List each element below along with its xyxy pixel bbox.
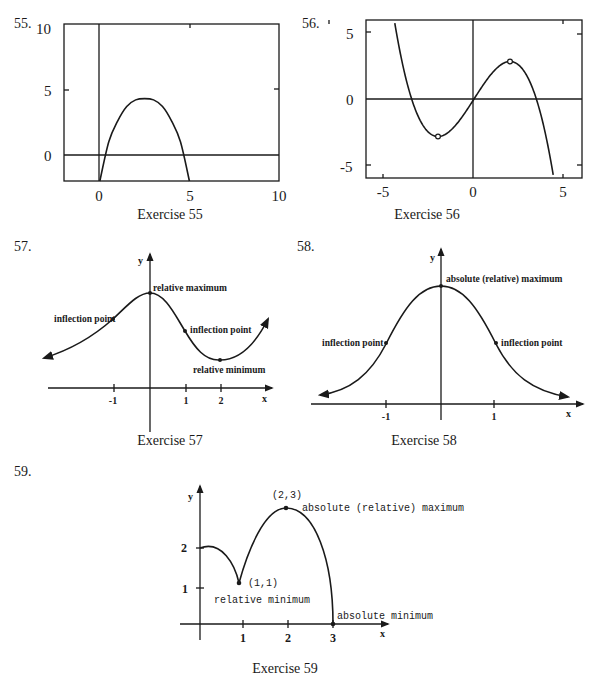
exercise-58-plot: 58. y x absolute (relative) maximum infl… — [297, 239, 583, 448]
exercise-57-x-label: x — [262, 393, 267, 404]
exercise-55-ytick-label-10: 10 — [36, 21, 51, 37]
exercise-57-xtick-label-2: 2 — [219, 395, 224, 406]
exercise-58-inflection-right-point — [494, 341, 498, 345]
exercise-56-max-point — [508, 59, 513, 64]
exercise-57-xtick-label-m1: -1 — [109, 395, 117, 406]
exercise-58-number: 58. — [297, 239, 315, 254]
exercise-58-annotation-inflection-left: inflection point — [322, 338, 384, 348]
exercise-59-min-note: relative minimum — [214, 595, 310, 606]
exercise-58-xtick-label-1: 1 — [492, 411, 497, 422]
exercise-59-absmin-note: absolute minimum — [337, 611, 433, 622]
exercise-57-y-label: y — [138, 255, 143, 266]
exercise-57-max-point — [148, 291, 152, 295]
exercise-57-annotation-min: relative minimum — [193, 365, 265, 375]
exercise-56-xtick-label-0: 0 — [469, 184, 477, 200]
exercise-59-max-note: absolute (relative) maximum — [302, 503, 464, 514]
exercise-59-absolute-min-point — [331, 622, 336, 627]
exercise-59-number: 59. — [14, 464, 32, 479]
exercise-59-y-label: y — [188, 491, 193, 502]
exercise-57-caption: Exercise 57 — [137, 433, 203, 448]
exercise-59-caption: Exercise 59 — [252, 661, 318, 676]
exercise-59-xtick-label-3: 3 — [330, 631, 336, 645]
exercise-57-annotation-inflection-right: inflection point — [190, 325, 252, 335]
exercise-58-inflection-left-point — [384, 341, 388, 345]
exercise-57-inflection-right-point — [183, 329, 187, 333]
exercise-57-annotation-inflection-left: inflection point — [54, 314, 116, 324]
exercise-55-xtick-label-5: 5 — [186, 188, 194, 204]
exercise-59-xtick-label-2: 2 — [285, 631, 291, 645]
exercise-55-xtick-label-0: 0 — [95, 188, 103, 204]
exercise-55-plot: 55. 10 5 0 0 5 10 Exercise 55 — [14, 16, 287, 222]
exercise-59-curve — [200, 508, 333, 624]
exercise-55-xtick-label-10: 10 — [272, 188, 287, 204]
exercise-56-ytick-label-0: 0 — [346, 92, 354, 108]
exercise-59-plot: 59. y x 2 1 1 2 3 (2,3) absolute (relati… — [14, 464, 464, 676]
exercise-56-caption: Exercise 56 — [394, 207, 460, 222]
exercise-57-xtick-label-1: 1 — [184, 395, 189, 406]
exercise-58-x-label: x — [566, 408, 571, 419]
exercise-56-plot: 56. 5 0 -5 -5 0 5 Exercise 56 — [302, 16, 582, 222]
figure-canvas: 55. 10 5 0 0 5 10 Exercise 55 56. 5 0 -5 — [0, 0, 598, 680]
exercise-55-number: 55. — [14, 16, 32, 31]
exercise-57-plot: 57. y x relative maximum inflection poin… — [14, 239, 272, 448]
exercise-58-annotation-max: absolute (relative) maximum — [446, 274, 563, 285]
exercise-57-min-point — [218, 358, 222, 362]
exercise-58-max-point — [439, 284, 443, 288]
exercise-56-ytick-label-m5: -5 — [340, 159, 353, 175]
exercise-57-number: 57. — [14, 239, 32, 254]
exercise-56-min-point — [436, 134, 441, 139]
exercise-58-xtick-label-m1: -1 — [382, 411, 390, 422]
exercise-58-y-label: y — [430, 252, 435, 263]
exercise-59-max-coord: (2,3) — [272, 490, 302, 501]
exercise-55-ytick-label-0: 0 — [44, 148, 52, 164]
exercise-56-ytick-label-5: 5 — [346, 26, 354, 42]
exercise-59-ytick-label-2: 2 — [181, 541, 187, 555]
exercise-58-caption: Exercise 58 — [391, 433, 457, 448]
exercise-55-ytick-label-5: 5 — [44, 83, 52, 99]
exercise-59-max-point — [284, 506, 289, 511]
exercise-56-number: 56. — [302, 16, 320, 31]
exercise-59-ytick-label-1: 1 — [182, 582, 188, 596]
exercise-56-xtick-label-m5: -5 — [377, 184, 390, 200]
exercise-56-xtick-label-5: 5 — [559, 184, 567, 200]
exercise-59-x-label: x — [380, 628, 385, 639]
exercise-59-min-point — [237, 581, 242, 586]
exercise-55-frame — [64, 24, 279, 181]
exercise-55-caption: Exercise 55 — [137, 207, 203, 222]
exercise-58-annotation-inflection-right: inflection point — [501, 338, 563, 348]
exercise-59-min-coord: (1,1) — [248, 578, 278, 589]
exercise-55-curve — [100, 99, 190, 181]
exercise-59-xtick-label-1: 1 — [240, 631, 246, 645]
exercise-57-annotation-max: relative maximum — [153, 283, 227, 293]
